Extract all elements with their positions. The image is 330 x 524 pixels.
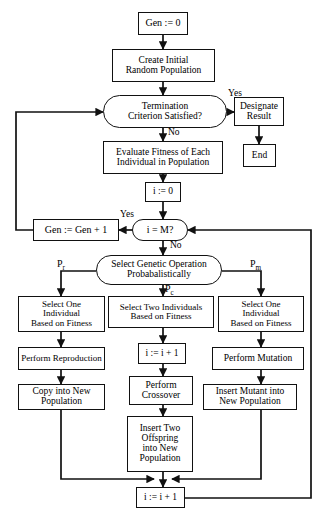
prob-crossover-subscript: c [171,289,174,297]
node-i-increment-middle[interactable]: i := i + 1 [138,343,186,364]
node-designate-result-label: Designate Result [238,102,280,122]
node-insert-offspring[interactable]: Insert Two Offspring into New Population [127,416,193,472]
node-termination[interactable]: Termination Criterion Satisfied? [103,95,227,128]
edge-label-termination-no: No [168,128,180,138]
node-copy-into-population-label: Copy into New Population [30,387,92,407]
node-copy-into-population[interactable]: Copy into New Population [18,384,105,410]
node-create-population-label: Create Initial Random Population [124,56,204,76]
node-perform-crossover-label: Perform Crossover [140,381,183,401]
node-gen-increment-label: Gen := Gen + 1 [43,225,109,236]
node-termination-label: Termination Criterion Satisfied? [126,102,204,122]
edge-label-prob-crossover: Pc [165,284,174,297]
node-select-one-right[interactable]: Select One Individual Based on Fitness [218,296,304,332]
edge-label-termination-yes: Yes [228,89,242,99]
node-evaluate-fitness-label: Evaluate Fitness of Each Individual in P… [114,148,212,168]
node-perform-mutation[interactable]: Perform Mutation [212,347,304,370]
node-gen-increment[interactable]: Gen := Gen + 1 [33,219,119,241]
node-create-population[interactable]: Create Initial Random Population [112,49,215,82]
node-perform-reproduction-label: Perform Reproduction [19,354,104,363]
node-select-one-right-label: Select One Individual Based on Fitness [228,300,293,328]
node-select-operation-label: Select Genetic Operation Probabalistical… [109,260,209,280]
node-designate-result[interactable]: Designate Result [234,97,284,126]
edge-label-i-equals-m-no: No [170,241,182,251]
node-i-init-label: i := 0 [151,187,175,197]
node-end[interactable]: End [243,144,276,167]
prob-reproduction-subscript: r [63,264,65,272]
node-perform-mutation-label: Perform Mutation [222,354,294,364]
node-end-label: End [250,151,269,161]
prob-mutation-subscript: m [256,264,262,272]
node-select-two-middle-label: Select Two Individuals Based on Fitness [118,303,205,322]
node-insert-mutant-label: Insert Mutant into New Population [214,387,287,407]
node-i-increment-middle-label: i := i + 1 [144,349,181,359]
node-i-increment-bottom[interactable]: i := i + 1 [136,487,185,508]
node-select-one-left-label: Select One Individual Based on Fitness [29,300,94,328]
node-i-init[interactable]: i := 0 [145,182,181,202]
edge-label-prob-mutation: Pm [250,259,261,272]
edge-label-i-equals-m-yes: Yes [120,210,134,220]
flowchart-canvas: Gen := 0 Create Initial Random Populatio… [0,0,330,524]
node-evaluate-fitness[interactable]: Evaluate Fitness of Each Individual in P… [103,141,223,174]
node-i-equals-m-label: i = M? [145,225,176,236]
node-perform-reproduction[interactable]: Perform Reproduction [18,347,105,370]
node-select-two-middle[interactable]: Select Two Individuals Based on Fitness [108,296,214,328]
node-insert-mutant[interactable]: Insert Mutant into New Population [203,384,297,410]
node-gen-init-label: Gen := 0 [143,18,182,29]
node-select-operation[interactable]: Select Genetic Operation Probabalistical… [96,255,222,285]
node-i-increment-bottom-label: i := i + 1 [142,493,179,503]
node-perform-crossover[interactable]: Perform Crossover [129,376,193,405]
node-insert-offspring-label: Insert Two Offspring into New Population [137,424,182,464]
edge-label-prob-reproduction: Pr [57,259,65,272]
node-gen-init[interactable]: Gen := 0 [138,12,188,35]
node-select-one-left[interactable]: Select One Individual Based on Fitness [18,296,105,332]
node-i-equals-m[interactable]: i = M? [132,219,188,241]
